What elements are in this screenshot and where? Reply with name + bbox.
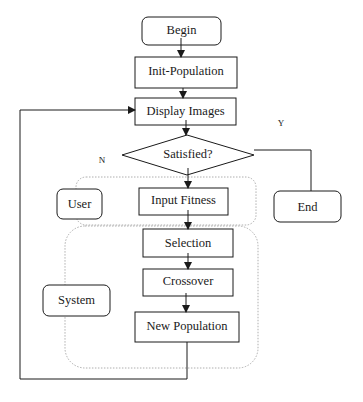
system-group-label: System bbox=[43, 285, 110, 315]
yes-edge-label: Y bbox=[274, 116, 288, 130]
satisfied-decision: Satisfied? bbox=[122, 143, 254, 165]
end-node: End bbox=[274, 191, 341, 224]
user-group-label: User bbox=[57, 189, 102, 219]
new-population-node: New Population bbox=[135, 312, 239, 340]
input-fitness-node: Input Fitness bbox=[139, 188, 228, 213]
begin-node: Begin bbox=[142, 17, 221, 43]
edge-satisfied-yes-to-end bbox=[254, 150, 311, 191]
crossover-node: Crossover bbox=[143, 269, 233, 294]
display-images-node: Display Images bbox=[135, 98, 236, 125]
init-population-node: Init-Population bbox=[135, 57, 237, 86]
no-edge-label: N bbox=[95, 153, 109, 167]
selection-node: Selection bbox=[143, 229, 233, 257]
